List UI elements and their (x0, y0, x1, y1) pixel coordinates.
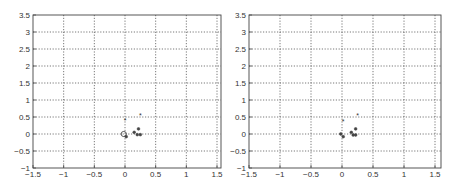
x-tick-label: 0.5 (150, 170, 162, 179)
x-tick-label: 0 (123, 170, 128, 179)
y-tick-label: −0.5 (230, 147, 246, 156)
y-tick-label: −1 (237, 164, 247, 173)
y-tick-label: −0.5 (14, 147, 30, 156)
data-point: * (356, 112, 359, 119)
data-point (136, 133, 139, 136)
y-tick-label: 1 (242, 96, 247, 105)
y-tick-label: 0 (26, 130, 31, 139)
y-tick-label: 2.5 (235, 45, 247, 54)
data-point (133, 131, 136, 134)
scatter-plot-2: −1.5−1−0.500.511.5−1−0.500.511.522.533.5… (230, 11, 441, 179)
y-tick-label: 2 (26, 62, 31, 71)
y-tick-label: 1.5 (235, 79, 247, 88)
x-tick-label: 1.5 (211, 170, 223, 179)
data-point: * (124, 117, 127, 124)
x-tick-label: −0.5 (86, 170, 102, 179)
y-tick-label: 3.5 (235, 11, 247, 20)
data-point (137, 127, 140, 130)
y-tick-label: 3 (26, 28, 31, 37)
figure-canvas: −1.5−1−0.500.511.5−1−0.500.511.522.533.5… (0, 0, 455, 187)
y-tick-label: −1 (21, 164, 31, 173)
data-point: * (342, 118, 345, 125)
data-point (342, 135, 345, 138)
data-point (354, 127, 357, 130)
x-tick-label: −1 (59, 170, 69, 179)
data-point (354, 134, 357, 137)
x-tick-label: −0.5 (303, 170, 319, 179)
data-point (350, 131, 353, 134)
y-tick-label: 0.5 (235, 113, 247, 122)
scatter-plot-1: −1.5−1−0.500.511.5−1−0.500.511.522.533.5… (14, 11, 223, 179)
y-tick-label: 2.5 (19, 45, 31, 54)
y-tick-label: 3.5 (19, 11, 31, 20)
x-tick-label: −1 (275, 170, 285, 179)
y-tick-label: 3 (242, 28, 247, 37)
x-tick-label: 0.5 (367, 170, 379, 179)
x-tick-label: 0 (340, 170, 345, 179)
x-tick-label: 1.5 (429, 170, 441, 179)
y-tick-label: 1.5 (19, 79, 31, 88)
data-point: * (139, 112, 142, 119)
y-tick-label: 0 (242, 130, 247, 139)
data-point (125, 135, 128, 138)
x-tick-label: 1 (184, 170, 189, 179)
data-point (339, 133, 342, 136)
y-tick-label: 0.5 (19, 113, 31, 122)
x-tick-label: 1 (402, 170, 407, 179)
y-tick-label: 2 (242, 62, 247, 71)
data-point (139, 133, 142, 136)
y-tick-label: 1 (26, 96, 31, 105)
